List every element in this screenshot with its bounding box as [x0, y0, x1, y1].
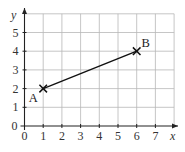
point-label: B — [142, 36, 150, 50]
x-axis-arrow-icon — [172, 124, 178, 129]
y-axis-label: y — [10, 8, 17, 22]
x-tick-label: 0 — [22, 129, 28, 143]
x-tick-label: 3 — [78, 129, 84, 143]
y-tick-label: 3 — [13, 63, 19, 77]
coordinate-plot: 01234567012345 AB x y — [0, 0, 185, 152]
y-tick-label: 5 — [13, 26, 19, 40]
x-tick-label: 6 — [134, 129, 140, 143]
grid — [25, 14, 175, 126]
y-tick-label: 0 — [12, 119, 18, 133]
x-tick-label: 1 — [40, 129, 46, 143]
y-axis-arrow-icon — [22, 8, 27, 14]
point-A: A — [29, 85, 47, 105]
point-B: B — [133, 36, 150, 55]
x-tick-label: 7 — [152, 129, 158, 143]
y-tick-label: 1 — [13, 100, 19, 114]
point-label: A — [29, 91, 38, 105]
y-tick-label: 2 — [13, 82, 19, 96]
x-tick-label: 5 — [115, 129, 121, 143]
x-axis-label: x — [169, 129, 176, 143]
x-tick-label: 4 — [96, 129, 102, 143]
y-tick-label: 4 — [13, 44, 19, 58]
x-tick-label: 2 — [59, 129, 65, 143]
